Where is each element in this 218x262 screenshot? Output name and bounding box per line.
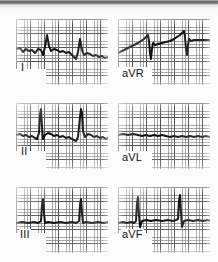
lead-label-i: I (20, 62, 25, 73)
lead-label-avl: aVL (121, 152, 143, 163)
ecg-trace-path (118, 31, 210, 59)
lead-label-iii: III (19, 229, 31, 240)
ecg-panel-grid: I aVR II (0, 0, 218, 262)
ecg-sheet: I aVR II (0, 0, 218, 262)
lead-label-avr: aVR (121, 68, 145, 79)
lead-label-ii: II (20, 146, 29, 157)
ecg-panel-lead-avf (118, 187, 210, 253)
ecg-panel-lead-iii (16, 187, 108, 253)
ecg-trace-path (16, 35, 108, 59)
ecg-waveform-lead-i (16, 19, 108, 85)
ecg-trace-path (118, 134, 210, 137)
ecg-trace-path (16, 109, 108, 141)
ecg-trace-path (118, 195, 210, 227)
ecg-panel-lead-i (16, 19, 108, 85)
ecg-waveform-lead-avf (118, 187, 210, 253)
ecg-panel-lead-ii (16, 103, 108, 169)
ecg-waveform-lead-iii (16, 187, 108, 253)
ecg-waveform-lead-ii (16, 103, 108, 169)
ecg-trace-path (16, 199, 108, 223)
lead-label-avf: aVF (121, 229, 144, 240)
